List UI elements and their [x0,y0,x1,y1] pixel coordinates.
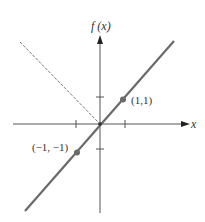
dashed-line [20,42,100,124]
point-1-1 [120,97,126,103]
point-label-pos: (1,1) [131,95,152,106]
point-label-neg: (−1, −1) [32,142,68,153]
x-axis-arrow-icon [181,121,190,127]
y-axis-arrow-icon [97,35,103,44]
x-axis-label: x [191,118,196,130]
point-neg1-neg1 [74,150,80,156]
chart: f (x) x (1,1) (−1, −1) [0,0,205,222]
origin-point [98,122,102,126]
plot-area [0,0,205,222]
y-axis-label: f (x) [91,20,111,32]
